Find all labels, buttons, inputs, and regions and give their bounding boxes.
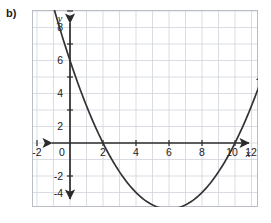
y-tick-label: 2 <box>57 120 63 132</box>
problem-label: b) <box>6 7 16 19</box>
y-tick-label: -2 <box>54 170 63 182</box>
y-tick-label: 4 <box>57 87 63 99</box>
x-tick-label: 8 <box>199 146 205 158</box>
x-tick-label: -2 <box>32 146 41 158</box>
graph-background <box>32 10 258 207</box>
x-tick-label: 4 <box>133 146 139 158</box>
x-axis-label: x <box>245 148 251 159</box>
graph-svg: -2 0 2 4 6 8 10 12 8 6 4 2 -2 -4 y x <box>32 10 258 207</box>
x-tick-label: 6 <box>166 146 172 158</box>
coordinate-graph: -2 0 2 4 6 8 10 12 8 6 4 2 -2 -4 y x <box>32 10 258 207</box>
x-tick-label: 0 <box>59 146 65 158</box>
y-tick-label: 6 <box>57 54 63 66</box>
y-tick-label: -4 <box>54 187 63 199</box>
